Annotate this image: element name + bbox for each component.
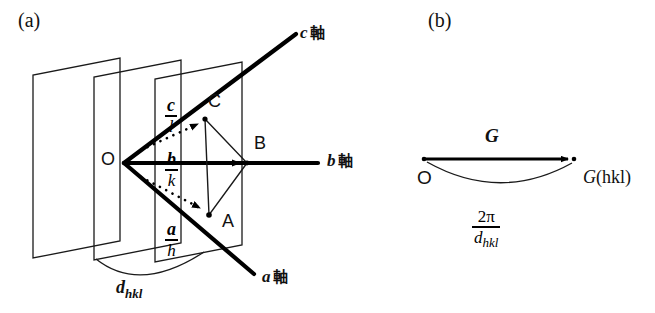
intercept-fraction-b-over-k: b k (165, 150, 178, 189)
intercept-fraction-a-over-h: a h (165, 220, 178, 259)
axis-label-a-suffix: 軸 (271, 268, 288, 286)
crystal-axes-group (124, 34, 318, 274)
G-endpoint-index: (hkl) (596, 167, 631, 187)
point-label-B: B (254, 134, 266, 152)
G-endpoint-label: G(hkl) (583, 168, 631, 186)
axis-label-b: b軸 (327, 152, 353, 169)
magnitude-denominator: dhkl (472, 229, 500, 249)
axis-label-c-suffix: 軸 (308, 24, 325, 42)
panel-label-b: (b) (428, 10, 451, 30)
axis-label-c: c軸 (300, 24, 325, 41)
point-B-marker (245, 161, 250, 166)
intercept-triangle (205, 119, 247, 215)
G-origin-marker (422, 157, 427, 162)
G-magnitude-fraction: 2π dhkl (472, 208, 500, 249)
fraction-denominator-k: k (165, 172, 178, 189)
magnitude-numerator: 2π (472, 208, 500, 225)
point-label-A: A (222, 212, 234, 230)
spacing-subscript: hkl (125, 286, 142, 301)
crystal-plane-figure: (a) (b) O C B A c軸 b軸 a軸 c l b k a h dhk… (0, 0, 655, 313)
G-magnitude-arc (427, 162, 572, 183)
point-A-marker (206, 212, 212, 218)
point-C-marker (202, 116, 207, 121)
fraction-denominator-l: l (165, 118, 177, 135)
magnitude-den-symbol: d (474, 228, 483, 247)
axis-label-b-suffix: 軸 (336, 152, 353, 170)
lattice-planes-group (33, 58, 242, 262)
fraction-numerator-b: b (165, 150, 178, 168)
reciprocal-vector-group (422, 157, 577, 183)
point-label-C: C (208, 92, 221, 110)
interplanar-spacing-label: dhkl (116, 278, 142, 300)
axis-label-a-vector: a (262, 267, 271, 286)
G-endpoint-symbol: G (583, 167, 596, 187)
magnitude-den-subscript: hkl (483, 235, 499, 250)
G-vector-label: G (485, 126, 499, 145)
axis-label-c-vector: c (300, 23, 308, 42)
origin-label-a: O (101, 150, 115, 168)
axis-label-a: a軸 (262, 268, 288, 285)
fraction-numerator-c: c (165, 96, 177, 114)
fraction-denominator-h: h (165, 242, 178, 259)
origin-label-b: O (417, 168, 432, 187)
axis-label-b-vector: b (327, 151, 336, 170)
panel-label-a: (a) (18, 10, 40, 30)
fraction-numerator-a: a (165, 220, 178, 238)
intercept-fraction-c-over-l: c l (165, 96, 177, 135)
G-endpoint-marker (572, 157, 577, 162)
spacing-symbol: d (116, 277, 125, 297)
